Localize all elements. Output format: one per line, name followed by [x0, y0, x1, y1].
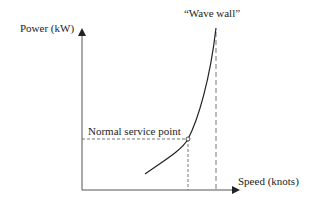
x-axis-label: Speed (knots): [238, 175, 299, 188]
service-point-label: Normal service point: [88, 125, 181, 137]
power-speed-diagram: Power (kW) Speed (knots) “Wave wall” Nor…: [0, 0, 319, 202]
service-point-marker: [186, 137, 190, 141]
wave-wall-label: “Wave wall”: [184, 7, 240, 19]
power-curve: [145, 28, 216, 174]
y-axis-label: Power (kW): [20, 22, 74, 35]
